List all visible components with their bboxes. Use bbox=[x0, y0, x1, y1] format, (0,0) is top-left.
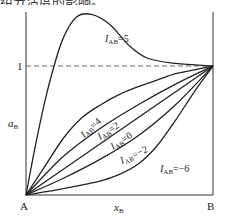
origin-label-A: A bbox=[20, 200, 28, 212]
curve-labels: IAB=5IAB=4IAB=2IAB=0IAB=−2IAB=−6 bbox=[77, 33, 189, 176]
curve-i-ab-0 bbox=[26, 66, 213, 195]
x-axis-label: xB bbox=[113, 201, 124, 215]
y-tick-1: 1 bbox=[17, 60, 23, 72]
curve-label: IAB=−6 bbox=[159, 163, 189, 176]
curve-label: IAB=5 bbox=[104, 33, 129, 46]
end-label-B: B bbox=[207, 200, 214, 212]
y-axis-label: aB bbox=[8, 117, 19, 131]
activity-chart: IAB=5IAB=4IAB=2IAB=0IAB=−2IAB=−6 1 aB A … bbox=[0, 0, 229, 221]
